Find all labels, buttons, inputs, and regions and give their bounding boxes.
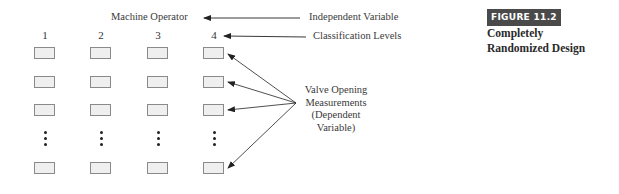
dv-arrow-row2 bbox=[228, 82, 296, 103]
vertical-ellipsis-icon bbox=[213, 131, 217, 149]
independent-variable-label: Independent Variable bbox=[309, 11, 398, 22]
level-label-3: 3 bbox=[148, 29, 168, 41]
measurement-box bbox=[90, 162, 111, 174]
measurement-box bbox=[90, 76, 111, 88]
factor-label: Machine Operator bbox=[111, 11, 188, 22]
vertical-ellipsis-icon bbox=[157, 131, 161, 149]
figure-title-line2: Randomized Design bbox=[487, 42, 585, 54]
measurement-box bbox=[147, 47, 168, 59]
measurement-box bbox=[90, 47, 111, 59]
measurement-box bbox=[147, 104, 168, 116]
dependent-variable-label: Valve Opening Measurements (Dependent Va… bbox=[290, 84, 382, 134]
measurement-box bbox=[34, 104, 55, 116]
vertical-ellipsis-icon bbox=[44, 131, 48, 149]
figure-caption: FIGURE 11.2Completely Randomized Design bbox=[487, 9, 619, 56]
classification-levels-label: Classification Levels bbox=[313, 30, 401, 41]
classification-levels-arrow bbox=[224, 36, 306, 37]
dv-line-2: Measurements bbox=[290, 97, 382, 110]
dv-line-3: (Dependent bbox=[290, 109, 382, 122]
dv-arrow-row1 bbox=[228, 54, 296, 103]
measurement-box bbox=[147, 162, 168, 174]
dv-arrow-row3 bbox=[228, 103, 296, 110]
measurement-box bbox=[34, 76, 55, 88]
dv-line-1: Valve Opening bbox=[290, 84, 382, 97]
measurement-box bbox=[203, 76, 224, 88]
figure-badge: FIGURE 11.2 bbox=[487, 9, 561, 26]
figure-title-line1: Completely bbox=[487, 27, 543, 39]
dv-arrow-rown bbox=[228, 103, 296, 168]
dv-line-4: Variable) bbox=[290, 122, 382, 135]
measurement-box bbox=[34, 47, 55, 59]
measurement-box bbox=[34, 162, 55, 174]
measurement-box bbox=[203, 104, 224, 116]
level-label-1: 1 bbox=[35, 29, 55, 41]
level-label-2: 2 bbox=[91, 29, 111, 41]
measurement-box bbox=[90, 104, 111, 116]
vertical-ellipsis-icon bbox=[100, 131, 104, 149]
measurement-box bbox=[203, 162, 224, 174]
level-label-4: 4 bbox=[204, 29, 224, 41]
measurement-box bbox=[203, 47, 224, 59]
measurement-box bbox=[147, 76, 168, 88]
